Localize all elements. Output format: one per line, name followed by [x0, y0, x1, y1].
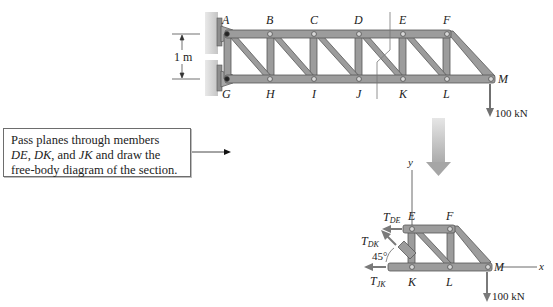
- note-text: and draw the: [93, 148, 161, 162]
- force-label-tjk: TJK: [370, 275, 386, 289]
- axis-x-label: x: [539, 261, 544, 272]
- node-label-i: I: [312, 88, 316, 100]
- axis-y-label: y: [408, 157, 413, 168]
- note-line-3: free-body diagram of the section.: [11, 164, 177, 177]
- fbd-node-m: M: [494, 261, 504, 273]
- node-label-j: J: [356, 88, 361, 100]
- note-line-2: DE, DK, and JK and draw the: [11, 149, 160, 162]
- force-label-tdk: TDK: [361, 235, 379, 249]
- member-de: DE: [11, 148, 28, 162]
- force-symbol: T: [370, 274, 377, 288]
- load-label-fbd: 100 kN: [492, 291, 525, 302]
- force-subscript: DK: [368, 240, 379, 249]
- top-truss: [224, 30, 495, 83]
- truss-figure: A B C D E F G H I J K L M 1 m 100 kN Pas…: [0, 0, 553, 307]
- note-line-1: Pass planes through members: [11, 134, 159, 147]
- note-text: , and: [51, 148, 78, 162]
- node-label-d: D: [354, 14, 363, 26]
- node-label-m: M: [498, 73, 508, 85]
- instruction-note: Pass planes through members DE, DK, and …: [3, 128, 191, 177]
- fbd-node-l: L: [446, 276, 453, 288]
- node-label-b: B: [266, 14, 273, 26]
- node-label-c: C: [310, 14, 318, 26]
- node-label-a: A: [222, 14, 229, 26]
- node-label-g: G: [222, 88, 231, 100]
- big-transition-arrow: [426, 118, 451, 176]
- node-label-f: F: [443, 14, 450, 26]
- member-jk: JK: [79, 148, 93, 162]
- fbd-node-e: E: [408, 210, 415, 222]
- force-symbol: T: [361, 234, 368, 248]
- load-label-top: 100 kN: [495, 108, 528, 119]
- note-pointer: [189, 149, 231, 155]
- load-arrow-top: [486, 84, 494, 117]
- fbd-truss: [388, 225, 492, 271]
- dimension-label: 1 m: [174, 51, 192, 63]
- node-label-l: L: [443, 88, 450, 100]
- force-subscript: JK: [377, 280, 386, 289]
- angle-label: 45°: [372, 251, 387, 262]
- node-label-h: H: [266, 88, 275, 100]
- fbd-node-k: K: [408, 276, 416, 288]
- node-label-k: K: [399, 88, 407, 100]
- member-dk: DK: [34, 148, 51, 162]
- force-label-tde: TDE: [383, 211, 400, 225]
- node-label-e: E: [399, 14, 406, 26]
- force-subscript: DE: [390, 216, 401, 225]
- force-symbol: T: [383, 210, 390, 224]
- fbd-node-f: F: [446, 210, 453, 222]
